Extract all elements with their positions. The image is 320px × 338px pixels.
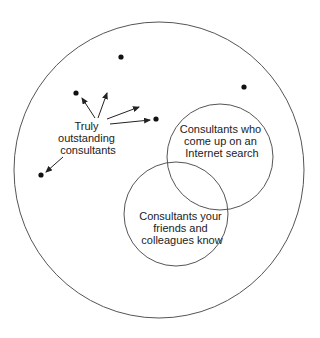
all-consultants-circle	[14, 22, 304, 318]
arrow-icon	[46, 157, 63, 172]
consultant-dot	[153, 116, 158, 121]
outstanding-label-line-2: outstanding	[58, 132, 115, 144]
arrow-icon	[82, 98, 95, 118]
consultant-dot	[38, 172, 43, 177]
internet-search-label: Consultants who come up on an Internet s…	[180, 123, 264, 159]
outstanding-consultants-label: Truly outstanding consultants	[58, 120, 118, 156]
outstanding-label-line-1: Truly	[74, 120, 99, 132]
friends-label-line-1: Consultants your	[139, 210, 222, 222]
friends-label-line-3: colleagues know	[141, 234, 222, 246]
internet-label-line-1: Consultants who	[180, 123, 261, 135]
arrow-icon	[98, 93, 107, 118]
outstanding-label-line-3: consultants	[60, 144, 116, 156]
consultant-dot	[73, 90, 78, 95]
internet-label-line-2: come up on an	[184, 135, 257, 147]
venn-diagram: Truly outstanding consultants Consultant…	[0, 0, 320, 338]
friends-label-line-2: friends and	[153, 222, 207, 234]
arrow-icon	[107, 107, 139, 119]
friends-colleagues-label: Consultants your friends and colleagues …	[139, 210, 225, 246]
outstanding-consultant-dots	[38, 54, 246, 177]
consultant-dot	[241, 84, 246, 89]
arrow-icon	[110, 120, 150, 124]
consultant-dot	[118, 54, 123, 59]
internet-label-line-3: Internet search	[185, 147, 258, 159]
